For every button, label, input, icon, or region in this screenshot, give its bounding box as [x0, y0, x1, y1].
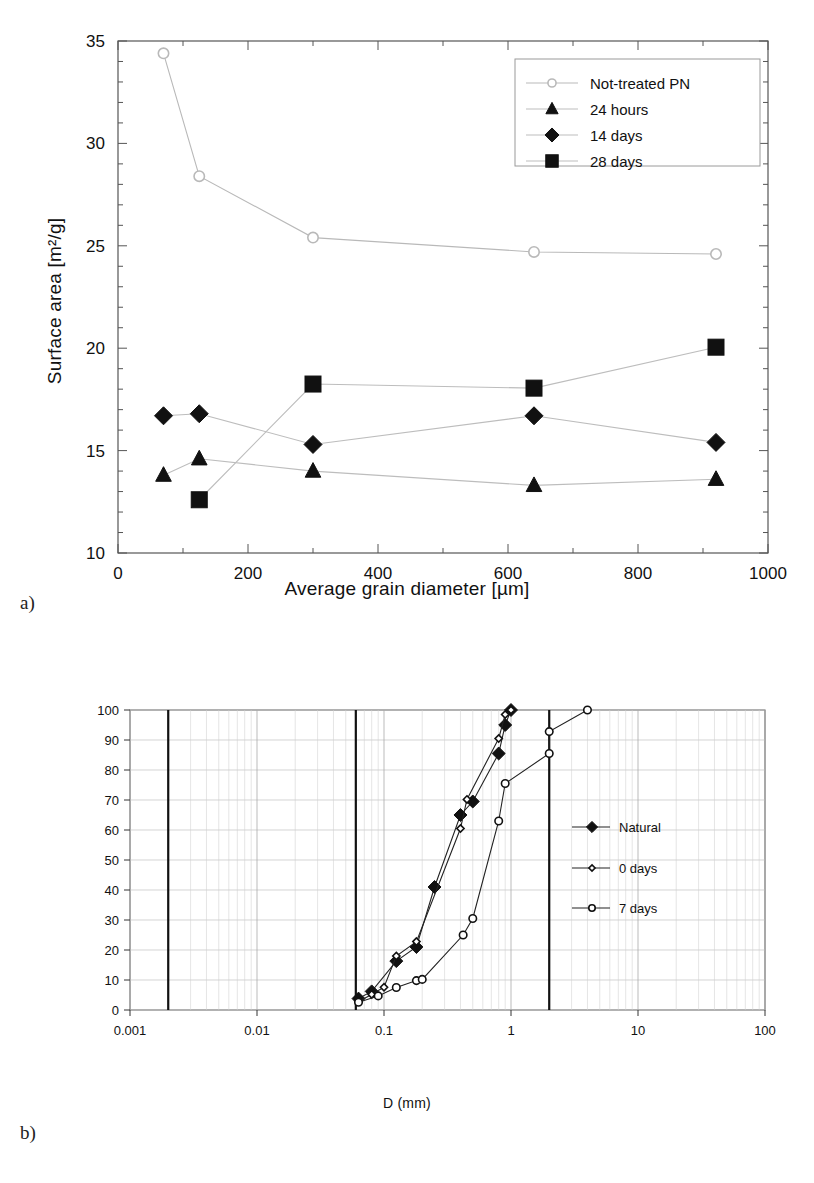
- y-tick-label: 40: [105, 883, 119, 898]
- marker-open-circle: [589, 905, 595, 911]
- x-tick-label: 0.001: [114, 1023, 147, 1038]
- x-tick-label: 0.01: [244, 1023, 269, 1038]
- marker-open-circle: [545, 750, 552, 757]
- y-tick-label: 35: [86, 32, 105, 51]
- marker-open-circle: [418, 976, 425, 983]
- y-axis-title-a: Surface area [m²/g]: [44, 121, 66, 481]
- marker-filled-square: [305, 376, 321, 392]
- y-tick-labels-a: 101520253035: [86, 32, 105, 563]
- y-tick-label: 10: [86, 544, 105, 563]
- marker-open-circle: [495, 817, 502, 824]
- marker-open-circle: [194, 171, 204, 181]
- legend-label: 28 days: [590, 153, 643, 170]
- y-tick-label: 90: [105, 733, 119, 748]
- marker-open-circle: [374, 992, 381, 999]
- y-tick-label: 30: [86, 134, 105, 153]
- marker-filled-square: [526, 380, 542, 396]
- marker-open-circle: [158, 48, 168, 58]
- marker-filled-square: [546, 155, 558, 167]
- y-tick-label: 0: [112, 1003, 119, 1018]
- y-tick-label: 30: [105, 913, 119, 928]
- legend-a: Not-treated PN24 hours14 days28 days: [515, 59, 760, 170]
- chart-panel-a: 101520253035 02004006008001000 Not-treat…: [0, 0, 814, 640]
- x-tick-labels-b: 0.0010.010.1110100: [114, 1023, 776, 1038]
- marker-open-circle: [584, 706, 591, 713]
- x-axis-title-a: Average grain diameter [µm]: [0, 578, 814, 600]
- marker-open-circle: [548, 79, 556, 87]
- marker-open-circle: [711, 249, 721, 259]
- y-tick-label: 50: [105, 853, 119, 868]
- marker-open-circle: [545, 728, 552, 735]
- x-tick-label: 10: [631, 1023, 645, 1038]
- y-tick-label: 15: [86, 442, 105, 461]
- marker-open-circle: [469, 915, 476, 922]
- figure-page: 101520253035 02004006008001000 Not-treat…: [0, 0, 814, 1183]
- marker-filled-square: [708, 339, 724, 355]
- panel-label-a: a): [20, 592, 35, 614]
- marker-open-circle: [308, 232, 318, 242]
- x-axis-title-b: D (mm): [0, 1095, 814, 1111]
- panel-a-svg: 101520253035 02004006008001000 Not-treat…: [0, 0, 814, 640]
- legend-label: Natural: [619, 820, 661, 835]
- x-tick-label: 100: [754, 1023, 776, 1038]
- marker-filled-square: [191, 492, 207, 508]
- marker-open-circle: [529, 247, 539, 257]
- legend-label: 24 hours: [590, 101, 648, 118]
- marker-open-circle: [355, 998, 362, 1005]
- y-tick-label: 10: [105, 973, 119, 988]
- y-tick-label: 100: [97, 703, 119, 718]
- y-tick-label: 20: [105, 943, 119, 958]
- legend-label: 7 days: [619, 901, 658, 916]
- marker-open-circle: [459, 931, 466, 938]
- x-tick-label: 1: [507, 1023, 514, 1038]
- y-tick-label: 80: [105, 763, 119, 778]
- y-tick-label: 20: [86, 339, 105, 358]
- legend-label: 14 days: [590, 127, 643, 144]
- marker-open-circle: [501, 780, 508, 787]
- y-tick-label: 25: [86, 237, 105, 256]
- panel-label-b: b): [20, 1122, 36, 1144]
- y-tick-labels-b: 0102030405060708090100: [97, 703, 119, 1018]
- legend-label: 0 days: [619, 861, 658, 876]
- x-tick-label: 0.1: [375, 1023, 393, 1038]
- marker-open-circle: [393, 984, 400, 991]
- y-tick-label: 60: [105, 823, 119, 838]
- legend-label: Not-treated PN: [590, 75, 690, 92]
- y-tick-label: 70: [105, 793, 119, 808]
